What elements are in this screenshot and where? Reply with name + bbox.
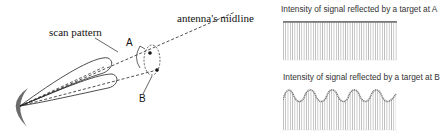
antenna-midline-label: antenna's midline (177, 12, 254, 24)
rotation-arrow-icon (137, 46, 141, 68)
panel-b-title: Intensity of signal reflected by a targe… (283, 72, 440, 82)
dish-icon (16, 88, 28, 127)
point-b-leader (143, 76, 152, 94)
beam-axis-upper (20, 67, 104, 106)
scan-pattern-leader (95, 38, 118, 52)
panel-a-signal-plot (283, 20, 399, 62)
upper-lobe (20, 58, 112, 106)
panel-b-signal-plot (283, 86, 399, 132)
scan-pattern-label: scan pattern (49, 26, 102, 38)
lower-lobe (20, 74, 117, 106)
point-a-dot (148, 51, 152, 55)
beam-axis-lower (20, 70, 157, 106)
panel-a-title: Intensity of signal reflected by a targe… (281, 4, 437, 14)
point-a-label: A (126, 37, 133, 48)
point-b-label: B (139, 93, 146, 104)
point-b-dot (155, 68, 159, 72)
